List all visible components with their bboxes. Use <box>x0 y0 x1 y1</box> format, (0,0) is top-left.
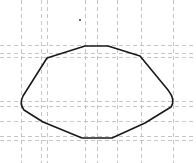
diagram-canvas <box>0 0 196 163</box>
horizontal-gridlines <box>0 46 196 141</box>
dot-marker <box>79 19 81 21</box>
closed-curve <box>21 46 173 138</box>
